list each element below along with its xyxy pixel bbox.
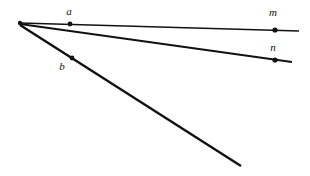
point-a-dot — [68, 22, 73, 27]
point-m-dot — [272, 27, 277, 32]
point-b-dot — [70, 56, 75, 61]
point-n-dot — [272, 57, 277, 62]
vertex-dot — [18, 21, 22, 25]
label-ray-m: m — [269, 6, 277, 18]
label-ray-n: n — [270, 41, 276, 53]
label-point-a: a — [66, 5, 72, 17]
geometry-figure-svg: a b m n — [0, 0, 310, 176]
label-point-b: b — [59, 60, 65, 72]
geometry-figure-canvas: a b m n — [0, 0, 310, 176]
